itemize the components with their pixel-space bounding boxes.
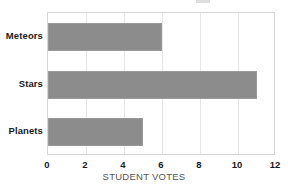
plot-area xyxy=(47,12,275,155)
x-axis-title: STUDENT VOTES xyxy=(0,171,288,182)
x-axis-tick-6: 6 xyxy=(141,159,181,170)
y-axis-label-planets: Planets xyxy=(0,125,43,136)
x-axis-tick-2: 2 xyxy=(65,159,105,170)
bar xyxy=(48,71,257,99)
y-axis-label-stars: Stars xyxy=(0,78,43,89)
y-axis-label-meteors: Meteors xyxy=(0,30,43,41)
clipped-title-artifact xyxy=(196,0,210,3)
bar-chart: MeteorsStarsPlanets 024681012 STUDENT VO… xyxy=(0,0,288,188)
bar xyxy=(48,118,143,146)
bars-layer xyxy=(48,13,274,154)
x-axis-tick-4: 4 xyxy=(103,159,143,170)
x-axis-tick-10: 10 xyxy=(217,159,257,170)
x-axis-tick-0: 0 xyxy=(27,159,67,170)
x-axis-tick-8: 8 xyxy=(179,159,219,170)
x-axis-tick-12: 12 xyxy=(255,159,288,170)
bar xyxy=(48,23,162,51)
